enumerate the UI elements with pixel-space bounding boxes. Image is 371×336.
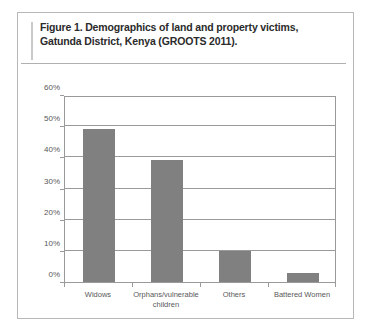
x-axis-tick bbox=[200, 283, 201, 287]
x-axis-label-line: Orphans/vulnerable bbox=[133, 290, 198, 299]
y-axis-tick bbox=[60, 251, 64, 252]
y-axis-tick-label: 20% bbox=[20, 207, 60, 216]
x-axis-tick-label: Others bbox=[200, 290, 268, 300]
x-axis-label-line: children bbox=[153, 300, 179, 309]
y-axis-tick bbox=[60, 157, 64, 158]
y-axis-tick-label: 60% bbox=[20, 83, 60, 92]
gridline bbox=[65, 125, 335, 126]
y-axis-tick-label: 40% bbox=[20, 145, 60, 154]
title-accent-rule bbox=[31, 22, 33, 60]
x-axis-ticks bbox=[64, 283, 336, 288]
y-axis-tick-label: 10% bbox=[20, 238, 60, 247]
x-axis-tick-label: Widows bbox=[64, 290, 132, 300]
bar-chart: 0%10%20%30%40%50%60% WidowsOrphans/vulne… bbox=[18, 68, 355, 320]
y-axis-labels: 0%10%20%30%40%50%60% bbox=[18, 96, 60, 283]
plot-area bbox=[64, 96, 336, 283]
x-axis-tick bbox=[268, 283, 269, 287]
y-axis-tick bbox=[60, 220, 64, 221]
bar bbox=[287, 273, 318, 282]
bar bbox=[151, 160, 182, 282]
x-axis-label-line: Widows bbox=[85, 290, 111, 299]
x-axis-tick bbox=[64, 283, 65, 287]
x-axis-tick bbox=[335, 283, 336, 287]
x-axis-label-line: Battered Women bbox=[274, 290, 330, 299]
y-axis-tick bbox=[60, 95, 64, 96]
y-axis-tick-label: 0% bbox=[20, 270, 60, 279]
y-axis-ticks bbox=[64, 96, 65, 283]
y-axis-tick bbox=[60, 126, 64, 127]
x-axis-tick-label: Orphans/vulnerablechildren bbox=[132, 290, 200, 310]
y-axis-tick-label: 50% bbox=[20, 114, 60, 123]
y-axis-tick bbox=[60, 189, 64, 190]
x-axis-tick-label: Battered Women bbox=[268, 290, 336, 300]
x-axis-label-line: Others bbox=[223, 290, 246, 299]
bar bbox=[83, 129, 114, 282]
figure-title: Figure 1. Demographics of land and prope… bbox=[40, 21, 340, 48]
bar bbox=[219, 251, 250, 282]
figure-title-block: Figure 1. Demographics of land and prope… bbox=[31, 21, 341, 61]
y-axis-tick-label: 30% bbox=[20, 176, 60, 185]
x-axis-tick bbox=[132, 283, 133, 287]
figure-frame: Figure 1. Demographics of land and prope… bbox=[17, 12, 354, 319]
x-axis-labels: WidowsOrphans/vulnerablechildrenOthersBa… bbox=[64, 290, 336, 320]
title-divider bbox=[21, 63, 346, 64]
